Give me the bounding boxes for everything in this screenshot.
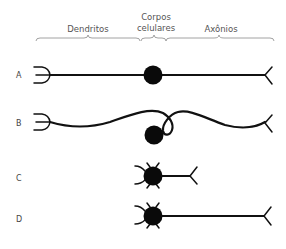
row-label-c: C [16,174,22,183]
dendrite-fork-icon [34,67,50,83]
row-label-a: A [16,71,22,80]
axons-brace [166,35,274,41]
cell-body-brace [141,35,166,41]
neuron-d [135,203,271,228]
row-label-b: B [16,119,22,128]
neuron-b [34,111,272,145]
cell-body-label-line2: celulares [137,23,176,33]
dendrites-brace [36,35,140,41]
dendrite-fork-icon [34,114,50,130]
axons-label: Axônios [204,24,238,34]
axon-terminal-icon [265,67,272,84]
axon-terminal-icon [265,115,272,132]
cell-body-icon [144,167,163,186]
row-label-d: D [16,215,22,224]
neuron-a [34,66,272,85]
cell-body-label-line1: Corpos [141,12,171,22]
axon-terminal-icon [190,167,197,184]
cell-body-icon [144,66,163,85]
cell-body-icon [144,207,163,226]
dendrites-label: Dendritos [67,24,109,34]
neuron-types-diagram: Dendritos Corpos celulares Axônios A B C… [0,0,286,249]
cell-body-icon [145,126,164,145]
neuron-c [135,163,197,188]
